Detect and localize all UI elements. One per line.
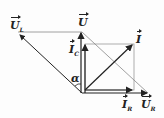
label-i: I	[136, 34, 141, 45]
label-u: U	[78, 17, 88, 28]
label-ul: UL	[10, 20, 24, 33]
label-ir: IR	[122, 99, 132, 112]
phasor-diagram: UL U IC I IR UR α	[0, 0, 164, 118]
label-ur: UR	[141, 99, 156, 112]
label-alpha: α	[71, 73, 79, 84]
label-ic: IC	[69, 44, 79, 57]
vector-i	[85, 45, 132, 90]
